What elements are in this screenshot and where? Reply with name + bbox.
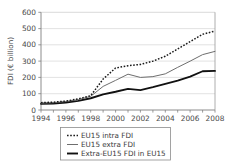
legend-item-extra-eu15-fdi-in-eu15[interactable]: Extra-EU15 FDI in EU15	[67, 149, 166, 158]
y-axis-title: FDI (€ billion)	[6, 37, 15, 85]
y-tick-200: 200	[22, 73, 36, 82]
x-tick-2002: 2002	[131, 114, 150, 123]
x-tick-2004: 2004	[156, 114, 175, 123]
y-tick-600: 600	[22, 8, 36, 17]
fdi-line-chart: 600 500 400 300 200 100 0 FDI (€ billion…	[0, 0, 227, 163]
legend-label-2: Extra-EU15 FDI in EU15	[81, 149, 166, 158]
x-tick-2000: 2000	[106, 114, 125, 123]
chart-canvas: 600 500 400 300 200 100 0 FDI (€ billion…	[0, 0, 227, 163]
x-tick-1994: 1994	[32, 114, 51, 123]
x-tick-2006: 2006	[181, 114, 200, 123]
x-tick-2008: 2008	[206, 114, 225, 123]
legend: EU15 intra FDI EU15 extra FDI Extra-EU15…	[61, 128, 171, 161]
y-tick-400: 400	[22, 40, 36, 49]
x-tick-1998: 1998	[81, 114, 100, 123]
legend-label-1: EU15 extra FDI	[81, 140, 135, 149]
y-tick-100: 100	[22, 89, 36, 98]
y-tick-500: 500	[22, 24, 36, 33]
x-tick-1996: 1996	[56, 114, 75, 123]
y-tick-300: 300	[22, 57, 36, 66]
legend-label-0: EU15 intra FDI	[81, 131, 133, 140]
